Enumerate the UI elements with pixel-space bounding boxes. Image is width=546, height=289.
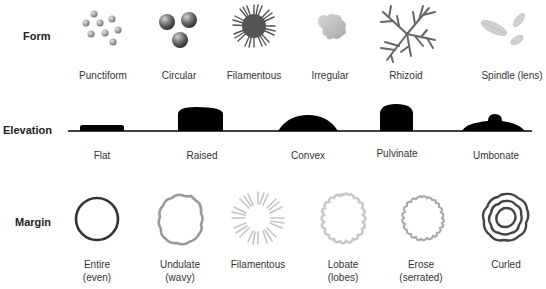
elevation-caption-pulvinate: Pulvinate (352, 147, 442, 160)
elevation-caption-flat: Flat (57, 149, 147, 162)
elevation-profiles (66, 100, 546, 140)
margin-undulate-name: Undulate (135, 258, 225, 271)
elevation-caption-raised: Raised (157, 149, 247, 162)
margin-erose-sub: (serrated) (376, 271, 466, 284)
raised-profile-icon (178, 107, 223, 131)
form-row-label: Form (23, 30, 51, 42)
flat-profile-icon (80, 125, 124, 131)
margin-caption-filamentous: Filamentous (213, 258, 303, 271)
margin-lobate-name: Lobate (298, 258, 388, 271)
lobate-margin-icon (316, 191, 370, 247)
elevation-row-label: Elevation (3, 124, 52, 136)
undulate-margin-icon (155, 192, 207, 248)
margin-caption-lobate: Lobate (lobes) (298, 258, 388, 284)
punctiform-icon (78, 10, 128, 50)
entire-margin-icon (73, 195, 121, 243)
rhizoid-icon (377, 4, 437, 62)
margin-caption-curled: Curled (461, 258, 546, 271)
elevation-caption-convex: Convex (263, 149, 353, 162)
margin-row-label: Margin (15, 216, 51, 228)
margin-erose-name: Erose (376, 258, 466, 271)
curled-margin-icon (481, 192, 531, 244)
margin-caption-erose: Erose (serrated) (376, 258, 466, 284)
margin-entire-name: Entire (52, 258, 142, 271)
convex-profile-icon (278, 115, 338, 131)
filamentous-margin-icon (230, 190, 286, 246)
margin-filamentous-name: Filamentous (213, 258, 303, 271)
erose-margin-icon (397, 194, 447, 244)
form-caption-rhizoid: Rhizoid (361, 69, 451, 82)
filamentous-form-icon (232, 4, 276, 48)
margin-entire-sub: (even) (52, 271, 142, 284)
margin-curled-name: Curled (461, 258, 546, 271)
elevation-caption-umbonate: Umbonate (451, 149, 541, 162)
pulvinate-profile-icon (380, 104, 413, 131)
form-caption-spindle: Spindle (lens) (467, 69, 546, 82)
margin-caption-entire: Entire (even) (52, 258, 142, 284)
margin-caption-undulate: Undulate (wavy) (135, 258, 225, 284)
margin-lobate-sub: (lobes) (298, 271, 388, 284)
circular-icon (157, 11, 203, 49)
irregular-icon (315, 11, 349, 43)
umbonate-profile-icon (462, 114, 525, 131)
margin-undulate-sub: (wavy) (135, 271, 225, 284)
spindle-icon (479, 12, 529, 46)
